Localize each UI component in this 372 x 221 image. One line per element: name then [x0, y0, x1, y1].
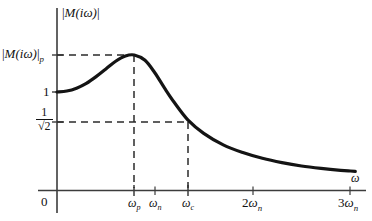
- peak-label-subscript: p: [40, 54, 44, 64]
- figure-magnitude-frequency-response: |M(iω)| |M(iω)|p 1 1 √2 0 ωp ωn ωc 2ωn 3…: [0, 0, 372, 221]
- peak-label-M: M: [5, 46, 16, 61]
- x-tick-label-origin: 0: [41, 195, 48, 208]
- x-tick-label-2-omega-n: 2ωn: [242, 196, 262, 212]
- y-axis-title-M: M: [65, 5, 76, 20]
- y-axis-title: |M(iω)|: [62, 6, 100, 19]
- fraction-numerator: 1: [36, 106, 53, 119]
- magnitude-response-curve: [57, 55, 355, 172]
- x-tick-label-omega-n: ωn: [149, 197, 162, 213]
- y-tick-label-one: 1: [43, 85, 50, 98]
- fraction-denominator: √2: [36, 119, 53, 133]
- peak-label-arg: (iω): [15, 46, 36, 61]
- y-tick-label-one-over-sqrt-two: 1 √2: [36, 106, 53, 132]
- plot-canvas: [0, 0, 372, 221]
- x-tick-label-3-omega-n: 3ωn: [338, 196, 358, 212]
- x-tick-label-omega-p: ωp: [128, 197, 141, 213]
- x-tick-label-omega-c: ωc: [182, 197, 194, 213]
- peak-value-label: |M(iω)|p: [2, 47, 44, 63]
- y-axis-title-arg: (iω): [75, 5, 96, 20]
- x-axis-title: ω: [351, 172, 359, 184]
